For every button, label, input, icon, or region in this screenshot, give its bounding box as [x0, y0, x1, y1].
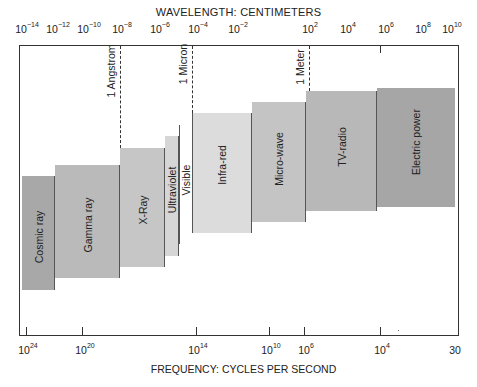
- stray-dot: [398, 330, 399, 331]
- band-label-cosmic-ray: Cosmic ray: [33, 211, 45, 264]
- band-label-x-ray: X-Ray: [137, 195, 149, 224]
- bottom-tick-label: 104: [374, 343, 390, 356]
- top-tick-label: 10−2: [228, 22, 248, 35]
- bottom-tick-label: 1020: [75, 343, 94, 356]
- frame-bottom-border: [19, 335, 459, 336]
- bottom-tick-label: 106: [298, 343, 314, 356]
- bottom-tick-mark: [304, 327, 305, 335]
- marker-label-micron: 1 Micron: [177, 44, 189, 84]
- band-label-ultraviolet: Ultraviolet: [166, 167, 178, 214]
- top-tick-label: 102: [302, 22, 318, 35]
- top-tick-label: 10−8: [112, 22, 132, 35]
- bottom-tick-mark: [380, 327, 381, 335]
- frame-right-border: [458, 45, 459, 336]
- bottom-tick-mark: [26, 327, 27, 335]
- top-tick-label: 10−12: [46, 22, 70, 35]
- top-tick-label: 108: [415, 22, 431, 35]
- top-tick-label: 10−14: [15, 22, 39, 35]
- frame-left-border: [19, 45, 20, 336]
- bottom-tick-mark: [269, 327, 270, 335]
- band-label-infra-red: Infra-red: [216, 145, 228, 185]
- angstrom-dashed-line: [120, 46, 121, 148]
- bottom-tick-label: 1024: [18, 343, 37, 356]
- bottom-tick-label: 1010: [261, 343, 280, 356]
- micron-dashed-line: [192, 46, 193, 113]
- top-tick-label: 10−10: [77, 22, 101, 35]
- bottom-tick-label: 1014: [188, 343, 207, 356]
- band-label-gamma-ray: Gamma ray: [82, 198, 94, 253]
- top-tick-mark: [380, 45, 381, 53]
- band-label-micro-wave: Micro-wave: [273, 132, 285, 186]
- top-tick-label: 1010: [442, 22, 461, 35]
- top-tick-label: 104: [340, 22, 356, 35]
- band-label-electric-power: Electric power: [410, 109, 422, 175]
- band-label-tv-radio: TV-radio: [336, 127, 348, 167]
- band-label-visible: Visible: [180, 165, 192, 196]
- marker-label-angstrom: 1 Angstrom: [105, 44, 117, 97]
- bottom-tick-mark: [196, 327, 197, 335]
- top-tick-label: 10−6: [150, 22, 170, 35]
- marker-label-meter: 1 Meter: [294, 49, 306, 85]
- top-tick-label: 106: [378, 22, 394, 35]
- bottom-tick-label: 30: [449, 343, 461, 356]
- frequency-axis-title: FREQUENCY: CYCLES PER SECOND: [0, 363, 477, 375]
- wavelength-axis-title: WAVELENGTH: CENTIMETERS: [0, 6, 477, 18]
- top-tick-label: 10−4: [188, 22, 208, 35]
- meter-dashed-line: [309, 46, 310, 91]
- frame-top-border: [19, 45, 458, 46]
- bottom-tick-mark: [82, 327, 83, 335]
